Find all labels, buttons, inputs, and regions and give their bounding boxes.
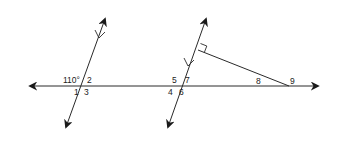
left-parallel-line xyxy=(66,19,105,127)
angle-label-110: 110° xyxy=(63,75,80,85)
angle-label-9: 9 xyxy=(290,76,295,86)
angle-label-3: 3 xyxy=(84,87,89,97)
angle-label-5: 5 xyxy=(172,75,177,85)
angle-label-6: 6 xyxy=(179,87,184,97)
angle-label-8: 8 xyxy=(256,76,261,86)
angle-label-2: 2 xyxy=(87,75,92,85)
angle-label-1: 1 xyxy=(74,87,79,97)
perpendicular-segment xyxy=(198,50,289,86)
diagram-svg: 110° 2 1 3 5 7 4 6 8 9 xyxy=(0,0,337,144)
parallel-mark-right-icon xyxy=(184,58,194,66)
angle-label-4: 4 xyxy=(168,87,173,97)
angle-label-7: 7 xyxy=(185,75,190,85)
right-parallel-line xyxy=(168,19,206,127)
geometry-diagram: 110° 2 1 3 5 7 4 6 8 9 xyxy=(0,0,337,144)
